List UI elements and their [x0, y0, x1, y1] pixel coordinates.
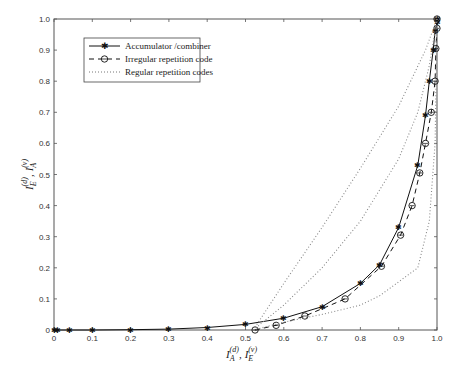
x-tick-label: 1.0 — [431, 334, 443, 343]
y-tick-label: 0.7 — [39, 108, 51, 117]
star-marker-icon: ✱ — [414, 161, 421, 170]
x-tick-label: 0.6 — [278, 334, 290, 343]
svg-text:IA(d),IE(v): IA(d),IE(v) — [225, 345, 257, 363]
x-tick-label: 0.8 — [355, 334, 367, 343]
series-4 — [253, 19, 437, 330]
x-tick-label: 0.9 — [393, 334, 405, 343]
star-marker-icon: ✱ — [280, 314, 287, 323]
y-tick-label: 0.9 — [39, 46, 51, 55]
y-tick-label: 0.3 — [39, 233, 51, 242]
svg-text:IE(d),IA(v): IE(d),IA(v) — [20, 159, 38, 191]
series-3 — [253, 19, 437, 330]
y-tick-label: 0.6 — [39, 139, 51, 148]
star-marker-icon: ✱ — [127, 326, 134, 335]
legend: ✱ Accumulator /combiner Irregular repeti… — [84, 38, 213, 82]
x-axis-label: IA(d),IE(v) — [225, 345, 257, 363]
y-tick-label: 0.8 — [39, 77, 51, 86]
series-2 — [253, 19, 437, 330]
star-marker-icon: ✱ — [395, 223, 402, 232]
chart-canvas: 00.10.20.30.40.50.60.70.80.91.0 00.10.20… — [0, 0, 460, 377]
x-tick-label: 0.1 — [87, 334, 99, 343]
star-marker-icon: ✱ — [89, 326, 96, 335]
star-marker-icon: ✱ — [242, 320, 249, 329]
x-tick-label: 0.7 — [317, 334, 329, 343]
legend-item-accumulator: ✱ Accumulator /combiner — [89, 41, 211, 51]
x-tick-label: 0.2 — [125, 334, 137, 343]
x-tick-label: 0.3 — [163, 334, 175, 343]
y-tick-label: 0.1 — [39, 295, 51, 304]
svg-text:Regular repetition codes: Regular repetition codes — [125, 67, 213, 77]
x-tick-label: 0 — [52, 334, 57, 343]
star-marker-icon: ✱ — [101, 41, 109, 51]
star-marker-icon: ✱ — [204, 324, 211, 333]
star-marker-icon: ✱ — [66, 326, 73, 335]
star-marker-icon: ✱ — [165, 325, 172, 334]
y-tick-label: 0.2 — [39, 264, 51, 273]
series-1 — [252, 16, 440, 333]
y-axis-label: IE(d),IA(v) — [20, 159, 38, 191]
svg-text:Accumulator /combiner: Accumulator /combiner — [125, 41, 211, 51]
x-tick-label: 0.5 — [240, 334, 252, 343]
star-marker-icon: ✱ — [54, 326, 61, 335]
y-tick-label: 1.0 — [39, 15, 51, 24]
svg-text:Irregular repetition code: Irregular repetition code — [125, 54, 212, 64]
y-tick-label: 0.4 — [39, 202, 51, 211]
x-tick-label: 0.4 — [202, 334, 214, 343]
y-tick-label: 0.5 — [39, 171, 51, 180]
